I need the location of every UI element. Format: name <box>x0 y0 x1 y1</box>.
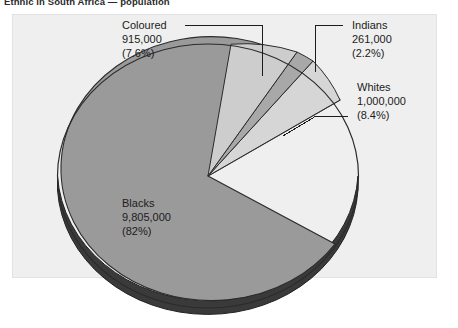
callout-whites-name: Whites <box>357 81 391 93</box>
callout-blacks-percent: (82%) <box>122 225 151 237</box>
callout-coloured-value: 915,000 <box>122 33 162 45</box>
callout-indians: Indians 261,000 (2.2%) <box>352 19 392 59</box>
callout-blacks-name: Blacks <box>122 197 155 209</box>
callout-coloured-percent: (7.6%) <box>122 47 154 59</box>
callout-coloured-name: Coloured <box>122 19 167 31</box>
callout-whites: Whites 1,000,000 (8.4%) <box>357 81 406 121</box>
callout-whites-value: 1,000,000 <box>357 95 406 107</box>
callout-whites-percent: (8.4%) <box>357 109 389 121</box>
callout-blacks-value: 9,805,000 <box>122 211 171 223</box>
leader-line-indians <box>315 25 343 72</box>
callout-indians-value: 261,000 <box>352 33 392 45</box>
callout-indians-percent: (2.2%) <box>352 47 384 59</box>
callout-indians-name: Indians <box>352 19 388 31</box>
pie-chart: Coloured 915,000 (7.6%) Indians 261,000 … <box>0 0 458 328</box>
